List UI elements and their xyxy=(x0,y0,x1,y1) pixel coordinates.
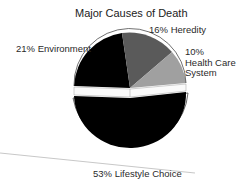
slice-lifestyle-group xyxy=(73,92,188,148)
label-health-care-1: 10% xyxy=(185,46,204,57)
label-health-care-3: System xyxy=(185,67,217,78)
pie-chart xyxy=(0,0,249,189)
slice-lifestyle xyxy=(74,92,186,148)
slice-environment xyxy=(74,33,130,88)
label-lifestyle: 53% Lifestyle Choice xyxy=(93,168,182,179)
label-heredity: 16% Heredity xyxy=(149,24,206,35)
label-environment: 21% Environment xyxy=(16,43,91,54)
chart-title: Major Causes of Death xyxy=(75,7,188,19)
